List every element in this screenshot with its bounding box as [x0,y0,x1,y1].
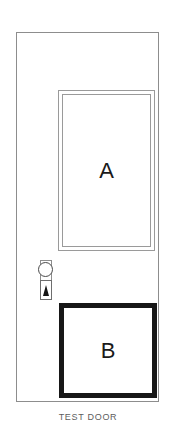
keyhole-icon [43,285,49,296]
door-knob-icon [38,262,53,277]
door-panel-a-inner-frame: A [62,94,151,247]
door-panel-a: A [58,90,155,251]
door-outline: A B [16,32,159,402]
door-lock-assembly [38,260,54,301]
lock-cylinder-plate [40,280,52,300]
door-panel-b: B [59,303,157,398]
figure-caption: TEST DOOR [0,412,176,422]
door-panel-a-label: A [63,160,150,182]
test-door-figure: A B TEST DOOR [0,0,176,444]
door-panel-b-label: B [64,340,152,362]
